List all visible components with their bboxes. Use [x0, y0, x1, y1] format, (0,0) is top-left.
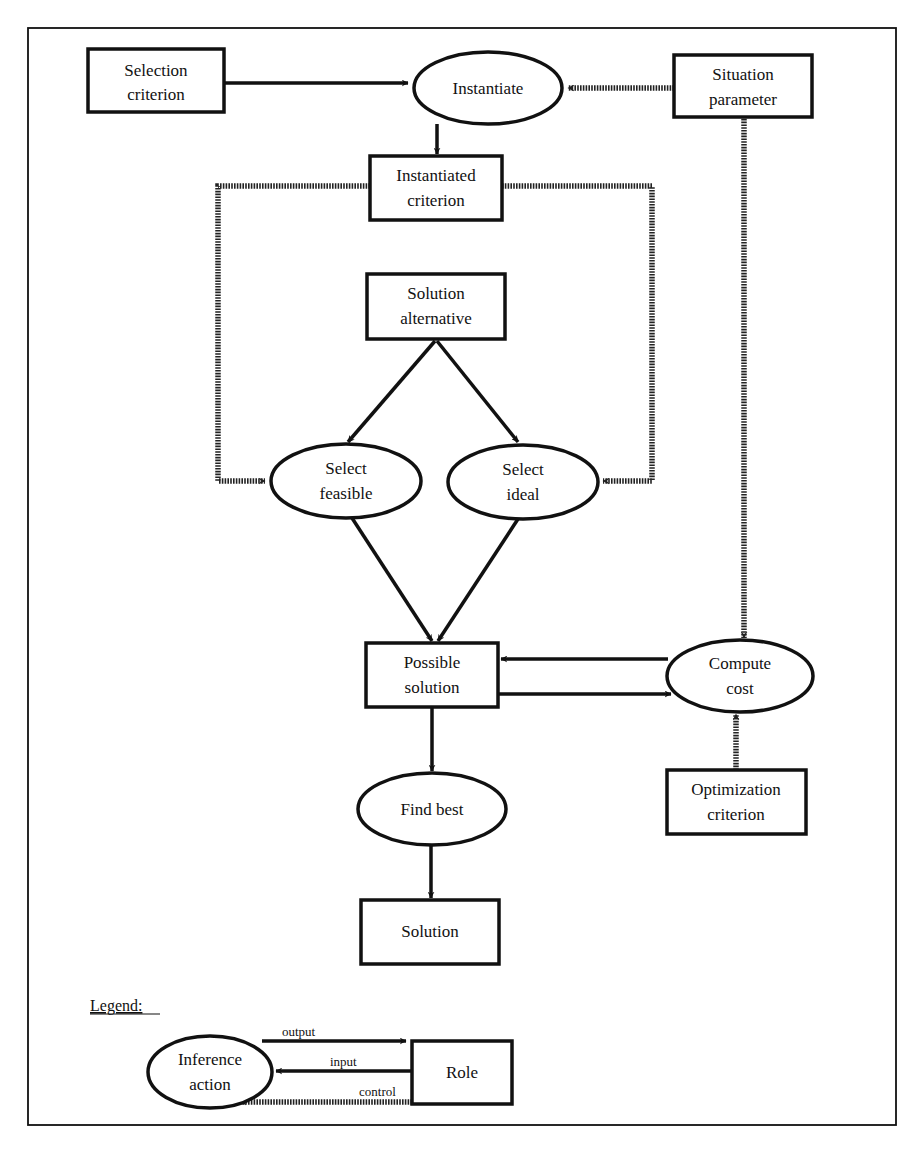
- svg-text:criterion: criterion: [407, 191, 465, 210]
- svg-text:criterion: criterion: [707, 805, 765, 824]
- svg-text:Select: Select: [502, 460, 544, 479]
- svg-text:Role: Role: [446, 1063, 478, 1082]
- svg-text:Solution: Solution: [401, 922, 459, 941]
- svg-text:alternative: alternative: [400, 309, 472, 328]
- role-solution-alternative: Solution alternative: [367, 274, 505, 339]
- inference-select-feasible: Select feasible: [271, 444, 421, 518]
- role-solution: Solution: [361, 900, 499, 964]
- svg-text:Situation: Situation: [712, 65, 774, 84]
- svg-text:input: input: [330, 1054, 357, 1069]
- svg-text:output: output: [282, 1024, 316, 1039]
- inference-diagram: Selection criterion Situation parameter …: [0, 0, 916, 1151]
- svg-text:parameter: parameter: [709, 90, 777, 109]
- role-selection-criterion: Selection criterion: [88, 49, 224, 112]
- role-instantiated-criterion: Instantiated criterion: [370, 156, 502, 220]
- legend: Legend: output input control Inference a…: [90, 997, 512, 1108]
- svg-text:ideal: ideal: [506, 485, 539, 504]
- svg-text:action: action: [189, 1075, 231, 1094]
- role-possible-solution: Possible solution: [366, 643, 498, 707]
- inference-find-best: Find best: [358, 773, 506, 845]
- svg-text:Optimization: Optimization: [691, 780, 781, 799]
- role-situation-parameter: Situation parameter: [674, 55, 812, 117]
- svg-text:Find best: Find best: [401, 800, 464, 819]
- inference-compute-cost: Compute cost: [667, 640, 813, 712]
- inference-instantiate: Instantiate: [414, 52, 562, 124]
- svg-text:control: control: [359, 1084, 396, 1099]
- svg-text:Inference: Inference: [178, 1050, 242, 1069]
- role-optimization-criterion: Optimization criterion: [667, 770, 806, 834]
- svg-text:feasible: feasible: [320, 484, 373, 503]
- svg-text:solution: solution: [405, 678, 460, 697]
- svg-text:Select: Select: [325, 459, 367, 478]
- svg-text:criterion: criterion: [127, 85, 185, 104]
- svg-text:Legend:: Legend:: [90, 997, 142, 1015]
- svg-text:Solution: Solution: [407, 284, 465, 303]
- edge-select-ideal-to-possible: [438, 519, 518, 641]
- legend-role: Role: [412, 1041, 512, 1104]
- svg-text:Compute: Compute: [709, 654, 771, 673]
- edge-instantiated-to-select-ideal: [502, 186, 652, 481]
- edge-select-feasible-to-possible: [352, 518, 432, 641]
- svg-text:Instantiate: Instantiate: [453, 79, 524, 98]
- svg-text:cost: cost: [726, 679, 754, 698]
- svg-text:Possible: Possible: [404, 653, 461, 672]
- edge-alternative-to-select-ideal: [437, 341, 518, 442]
- svg-text:Selection: Selection: [124, 61, 188, 80]
- inference-select-ideal: Select ideal: [448, 445, 598, 519]
- legend-inference-action: Inference action: [148, 1036, 272, 1108]
- edge-instantiated-to-select-feasible: [218, 186, 370, 481]
- svg-text:Instantiated: Instantiated: [396, 166, 476, 185]
- edge-alternative-to-select-feasible: [348, 341, 435, 442]
